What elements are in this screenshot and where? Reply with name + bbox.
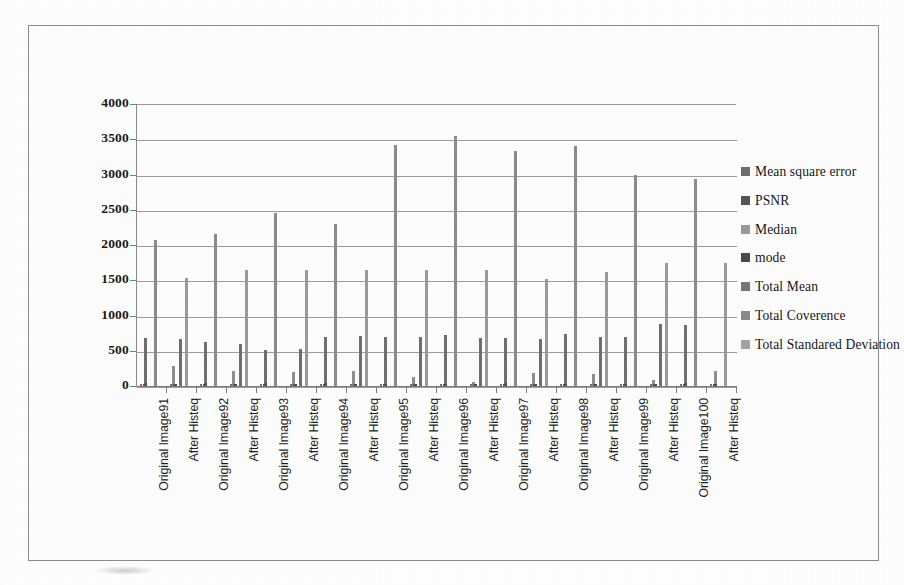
bar: [299, 349, 302, 386]
chart-legend: Mean square errorPSNRMedianmodeTotal Mea…: [741, 164, 901, 365]
legend-item-label: Mean square error: [755, 164, 856, 180]
x-axis-tick: [706, 386, 707, 393]
y-axis-tick: [130, 386, 137, 387]
bar: [144, 338, 147, 386]
bar: [394, 145, 397, 386]
x-axis-category-label: Original Image100: [697, 398, 711, 538]
legend-item-label: Total Standared Deviation: [755, 337, 900, 353]
bar: [715, 384, 717, 386]
x-axis-category-label: Original Image95: [397, 398, 411, 538]
x-axis-tick: [196, 386, 197, 393]
x-axis-tick: [436, 386, 437, 393]
bar: [599, 337, 602, 386]
x-axis-category-label: After Histeq: [547, 398, 561, 538]
bar: [574, 146, 577, 386]
page-smudge: [95, 566, 155, 575]
bar: [325, 383, 327, 386]
x-axis-tick: [586, 386, 587, 393]
bar: [684, 325, 687, 386]
legend-item: Total Mean: [741, 279, 901, 295]
bar: [454, 136, 457, 386]
bar: [539, 339, 542, 386]
bar-group: [346, 104, 376, 386]
legend-item: Mean square error: [741, 164, 901, 180]
y-axis-tick-label: 1000: [71, 307, 129, 323]
x-axis-tick: [556, 386, 557, 393]
bar: [685, 383, 687, 386]
x-axis-tick: [616, 386, 617, 393]
x-axis-tick: [526, 386, 527, 393]
y-axis-tick-label: 4000: [71, 95, 129, 111]
bar: [595, 384, 597, 386]
legend-swatch-icon: [741, 282, 750, 291]
bar-group: [166, 104, 196, 386]
x-axis-tick: [286, 386, 287, 393]
legend-item: mode: [741, 250, 901, 266]
bar-group: [556, 104, 586, 386]
bar-group: [616, 104, 646, 386]
x-axis-category-label: After Histeq: [487, 398, 501, 538]
legend-item: Total Standared Deviation: [741, 337, 901, 353]
x-axis-tick: [646, 386, 647, 393]
x-axis-tick: [166, 386, 167, 393]
x-axis-tick: [676, 386, 677, 393]
bar: [545, 279, 548, 386]
bar: [665, 263, 668, 386]
x-axis-category-label: After Histeq: [727, 398, 741, 538]
y-axis-tick-label: 3000: [71, 166, 129, 182]
chart-outer-border: 05001000150020002500300035004000 Origina…: [28, 25, 879, 561]
bar: [385, 384, 387, 386]
x-axis-tick: [466, 386, 467, 393]
bar: [205, 383, 207, 386]
bar: [445, 384, 447, 386]
bar: [235, 384, 237, 386]
legend-swatch-icon: [741, 196, 750, 205]
x-axis-category-label: After Histeq: [247, 398, 261, 538]
y-axis-tick-label: 1500: [71, 271, 129, 287]
y-axis-tick-label: 3500: [71, 130, 129, 146]
bar: [305, 270, 308, 386]
legend-item: Total Coverence: [741, 308, 901, 324]
x-axis-category-label: Original Image92: [217, 398, 231, 538]
bar: [214, 234, 217, 386]
bar-group: [136, 104, 166, 386]
bar: [514, 151, 517, 386]
bar-group: [466, 104, 496, 386]
bar: [724, 263, 727, 386]
bar: [265, 383, 267, 386]
x-axis-category-label: Original Image98: [577, 398, 591, 538]
x-axis-tick: [256, 386, 257, 393]
bar-group: [526, 104, 556, 386]
bar: [655, 384, 657, 386]
bar: [415, 384, 417, 386]
bar: [419, 337, 422, 386]
bar-group: [706, 104, 736, 386]
legend-item-label: mode: [755, 250, 786, 266]
x-axis-category-label: Original Image97: [517, 398, 531, 538]
y-axis-tick-label: 0: [71, 377, 129, 393]
bar: [694, 179, 697, 386]
x-axis-category-label: Original Image99: [637, 398, 651, 538]
y-axis-tick-label: 2000: [71, 236, 129, 252]
bar: [154, 240, 157, 386]
bar-group: [586, 104, 616, 386]
bar: [479, 338, 482, 386]
bar-group: [316, 104, 346, 386]
bar: [264, 350, 267, 386]
bar: [324, 337, 327, 386]
bar: [179, 339, 182, 386]
legend-swatch-icon: [741, 167, 750, 176]
bar: [624, 337, 627, 386]
x-axis-category-label: Original Image91: [157, 398, 171, 538]
x-axis-category-label: After Histeq: [607, 398, 621, 538]
x-axis-category-label: After Histeq: [427, 398, 441, 538]
y-axis-tick-label: 500: [71, 342, 129, 358]
gridline: [137, 387, 737, 388]
x-axis-category-label: Original Image94: [337, 398, 351, 538]
bar: [145, 383, 147, 386]
bar: [605, 272, 608, 386]
x-axis-tick: [346, 386, 347, 393]
legend-swatch-icon: [741, 225, 750, 234]
legend-item-label: Total Mean: [755, 279, 818, 295]
x-axis-tick: [496, 386, 497, 393]
